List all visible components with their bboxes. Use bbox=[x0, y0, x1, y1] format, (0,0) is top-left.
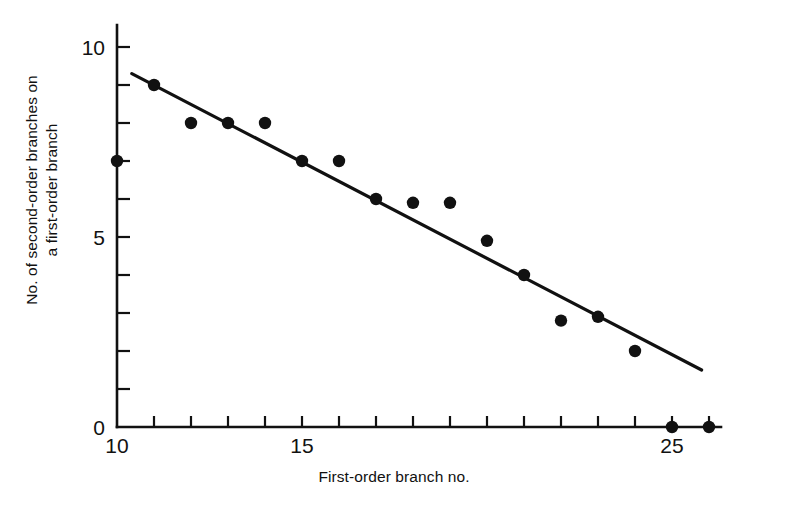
y-axis-title-line-2: a first-order branch bbox=[42, 30, 62, 350]
y-tick-label-0: 0 bbox=[93, 416, 105, 439]
data-point-x24 bbox=[629, 345, 641, 357]
tick-labels: 1015250510 bbox=[82, 36, 684, 457]
y-tick-label-5: 5 bbox=[93, 226, 105, 249]
data-point-x25 bbox=[666, 421, 678, 433]
data-point-x14 bbox=[259, 117, 271, 129]
x-tick-label-10: 10 bbox=[105, 434, 128, 457]
data-point-x13 bbox=[222, 117, 234, 129]
y-axis-title-line-1: No. of second-order branches on bbox=[22, 30, 42, 350]
data-point-x21 bbox=[518, 269, 530, 281]
axes bbox=[117, 25, 721, 427]
data-point-x19 bbox=[444, 197, 456, 209]
y-tick-label-10: 10 bbox=[82, 36, 105, 59]
data-point-x18 bbox=[407, 197, 419, 209]
x-axis-title: First-order branch no. bbox=[0, 468, 788, 486]
x-tick-label-25: 25 bbox=[660, 434, 683, 457]
data-point-x16 bbox=[333, 155, 345, 167]
chart-figure: 1015250510 No. of second-order branches … bbox=[0, 0, 788, 514]
data-points bbox=[111, 79, 715, 433]
data-point-x10 bbox=[111, 155, 123, 167]
data-point-x23 bbox=[592, 311, 604, 323]
x-tick-label-15: 15 bbox=[290, 434, 313, 457]
data-point-x15 bbox=[296, 155, 308, 167]
data-point-x22 bbox=[555, 314, 567, 326]
data-point-x17 bbox=[370, 193, 382, 205]
y-axis-title: No. of second-order branches on a first-… bbox=[22, 30, 62, 350]
trend-line bbox=[132, 74, 702, 370]
scatter-plot-canvas: 1015250510 bbox=[0, 0, 788, 514]
data-point-x26 bbox=[703, 421, 715, 433]
fitted-trend-line bbox=[132, 74, 702, 370]
data-point-x11 bbox=[148, 79, 160, 91]
data-point-x20 bbox=[481, 235, 493, 247]
tick-marks bbox=[117, 47, 709, 427]
data-point-x12 bbox=[185, 117, 197, 129]
